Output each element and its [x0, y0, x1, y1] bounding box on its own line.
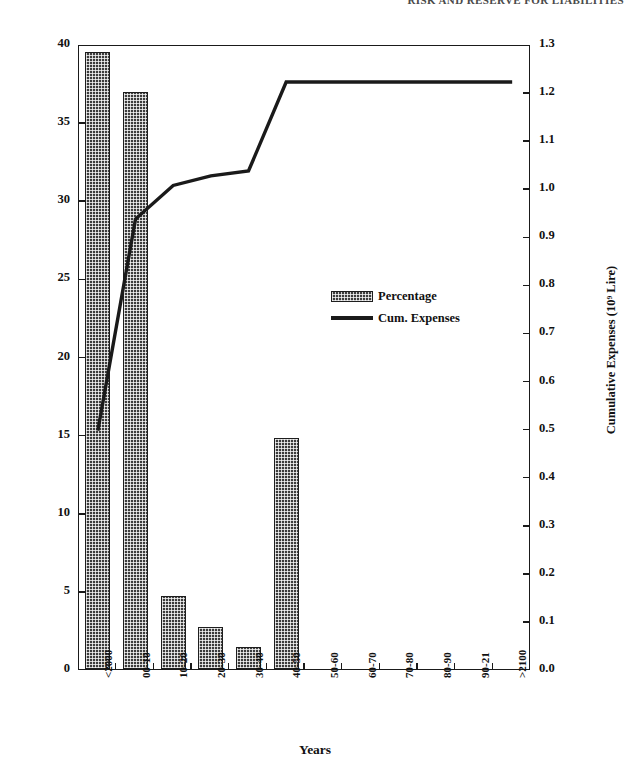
y-tick-label-right: 0.1	[539, 613, 599, 628]
x-tick	[228, 663, 230, 670]
y-axis-right-title: Cumulative Expenses (10⁹ Lire)	[604, 140, 619, 560]
legend-label-cum-expenses: Cum. Expenses	[378, 311, 460, 326]
y-tick-label-right: 1.2	[539, 84, 599, 99]
y-tick-label-right: 0.0	[539, 661, 599, 676]
y-tick-label-right: 1.1	[539, 132, 599, 147]
y-tick-label-right: 0.5	[539, 421, 599, 436]
x-tick	[153, 663, 155, 670]
y-tick-label-right: 0.8	[539, 276, 599, 291]
x-tick-label-00-10: 00-10	[140, 652, 152, 678]
y-tick-label-right: 0.7	[539, 324, 599, 339]
y-tick-right	[523, 285, 530, 287]
y-tick-label-left: 25	[10, 270, 70, 285]
x-tick-label-60-70: 60-70	[366, 652, 378, 678]
y-tick-right	[523, 381, 530, 383]
x-tick-label-70-80: 70-80	[403, 652, 415, 678]
y-tick-label-left: 10	[10, 505, 70, 520]
x-tick-label-2000: <2000	[102, 650, 114, 678]
y-tick-label-left: 35	[10, 114, 70, 129]
y-tick-left	[78, 591, 85, 593]
y-tick-right	[523, 237, 530, 239]
y-tick-label-left: 40	[10, 36, 70, 51]
y-tick-label-right: 0.9	[539, 228, 599, 243]
y-tick-label-left: 20	[10, 349, 70, 364]
x-tick	[416, 663, 418, 670]
y-tick-right	[523, 621, 530, 623]
x-tick-label-40-50: 40-50	[290, 652, 302, 678]
y-tick-label-right: 1.0	[539, 180, 599, 195]
y-tick-right	[523, 333, 530, 335]
legend-item-percentage: Percentage	[331, 285, 521, 307]
y-tick-right	[523, 477, 530, 479]
x-axis-title: Years	[0, 742, 630, 758]
y-tick-label-left: 5	[10, 583, 70, 598]
y-tick-label-right: 0.3	[539, 517, 599, 532]
x-tick	[492, 663, 494, 670]
y-tick-left	[78, 200, 85, 202]
y-tick-right	[523, 188, 530, 190]
y-tick-right	[523, 525, 530, 527]
y-tick-left	[78, 435, 85, 437]
x-tick	[341, 663, 343, 670]
x-tick-label-80-90: 80-90	[441, 652, 453, 678]
x-tick	[379, 663, 381, 670]
x-tick	[303, 663, 305, 670]
y-tick-label-right: 0.2	[539, 565, 599, 580]
y-tick-right	[523, 92, 530, 94]
x-tick-label-20-30: 20-30	[215, 652, 227, 678]
y-tick-right	[523, 573, 530, 575]
y-tick-right	[523, 429, 530, 431]
y-tick-label-left: 0	[10, 661, 70, 676]
figure-container: Share of Total Disbursment during the pe…	[0, 0, 630, 769]
legend-item-cum-expenses: Cum. Expenses	[331, 307, 521, 329]
y-tick-right	[523, 140, 530, 142]
x-tick-label-50-60: 50-60	[328, 652, 340, 678]
y-tick-left	[78, 357, 85, 359]
y-tick-label-right: 1.3	[539, 36, 599, 51]
x-tick-label-10-20: 10-20	[177, 652, 189, 678]
y-tick-left	[78, 513, 85, 515]
legend-line-swatch-icon	[331, 316, 373, 319]
y-tick-label-left: 30	[10, 192, 70, 207]
legend-label-percentage: Percentage	[378, 289, 437, 304]
y-tick-label-right: 0.4	[539, 469, 599, 484]
x-tick	[115, 663, 117, 670]
chart-legend: Percentage Cum. Expenses	[331, 285, 521, 329]
y-tick-left	[78, 279, 85, 281]
x-tick	[266, 663, 268, 670]
legend-bar-swatch-icon	[331, 291, 373, 302]
x-tick-label-30-40: 30-40	[253, 652, 265, 678]
y-tick-label-right: 0.6	[539, 373, 599, 388]
x-tick	[190, 663, 192, 670]
cumulative-expenses-line	[79, 46, 531, 671]
plot-area: Percentage Cum. Expenses	[78, 45, 530, 670]
y-tick-label-left: 15	[10, 427, 70, 442]
x-tick-label-90-21: 90-21	[479, 652, 491, 678]
x-tick-label-2100: >2100	[516, 650, 528, 678]
x-tick	[454, 663, 456, 670]
y-tick-left	[78, 122, 85, 124]
